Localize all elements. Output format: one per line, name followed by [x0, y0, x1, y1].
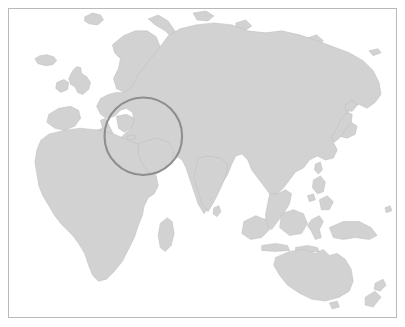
land-ireland [56, 80, 69, 93]
land-great-britain [69, 67, 91, 95]
land-sri-lanka [213, 206, 221, 217]
land-philippines-small [307, 194, 315, 202]
map-figure: World map with highlighted region Middle… [0, 0, 405, 327]
land-tasmania [329, 301, 339, 309]
land-taiwan [314, 162, 322, 174]
map-frame-border [8, 8, 397, 318]
land-madagascar [158, 218, 174, 252]
land-iceland [35, 55, 57, 66]
land-java [262, 243, 290, 251]
land-australia [274, 249, 354, 301]
landmass-group [35, 11, 392, 309]
land-pacific-islands [385, 206, 392, 213]
world-map-svg[interactable] [9, 9, 396, 317]
land-borneo [280, 210, 308, 236]
land-new-guinea [329, 222, 377, 240]
land-svalbard [85, 13, 104, 25]
land-arctic-island-north [193, 11, 214, 21]
land-new-zealand-north [374, 279, 386, 291]
land-iberia [47, 106, 81, 130]
figure-title: World map with highlighted region [0, 0, 1, 1]
annotation-label: Middle East highlight [0, 0, 1, 1]
land-new-zealand-south [365, 291, 381, 307]
land-philippines-luzon [312, 176, 325, 194]
land-sulawesi [307, 216, 323, 240]
land-wrangel-island [369, 49, 381, 56]
land-philippines-mindanao [319, 196, 333, 210]
